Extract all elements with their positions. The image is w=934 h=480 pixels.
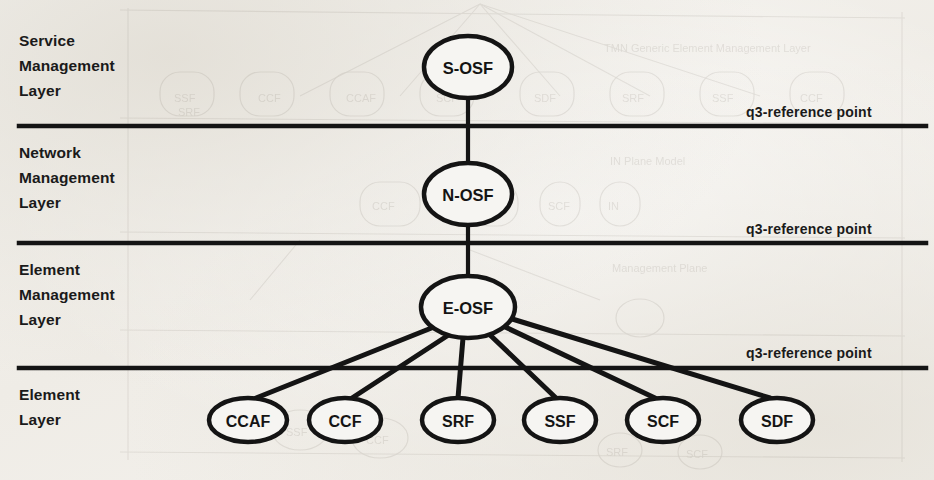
node-n-osf-label: N-OSF [442, 186, 493, 204]
node-e-osf: E-OSF [421, 276, 515, 338]
node-srf-label: SRF [442, 413, 474, 430]
node-s-osf: S-OSF [424, 36, 512, 98]
node-ccaf-label: CCAF [226, 413, 271, 430]
scanned-figure-page: TMN Generic Element Management Layer IN … [0, 0, 934, 480]
node-n-osf: N-OSF [424, 163, 512, 225]
q3-reference-point-label-1: q3-reference point [746, 104, 872, 120]
node-srf: SRF [422, 398, 494, 442]
connector-edges [256, 98, 770, 398]
layer-label-line: Element [19, 382, 80, 407]
edge-e-osf-sdf [509, 318, 770, 398]
q3-reference-point-label-3: q3-reference point [746, 345, 872, 361]
layer-label-line: Layer [19, 78, 115, 103]
node-ccf-label: CCF [329, 413, 362, 430]
node-ccaf: CCAF [209, 398, 287, 442]
edge-e-osf-srf [458, 338, 463, 398]
node-scf-label: SCF [647, 413, 679, 430]
diagram-canvas: S-OSF N-OSF E-OSF CCAF [0, 0, 934, 480]
trunk-nodes: S-OSF N-OSF E-OSF [421, 36, 515, 338]
layer-label-line: Layer [19, 190, 115, 215]
node-ssf: SSF [524, 398, 596, 442]
layer-label-element: Element Layer [19, 382, 80, 432]
node-scf: SCF [627, 398, 699, 442]
node-sdf-label: SDF [761, 413, 793, 430]
layer-label-line: Management [19, 53, 115, 78]
node-sdf: SDF [741, 398, 813, 442]
node-ccf: CCF [309, 398, 381, 442]
node-s-osf-label: S-OSF [443, 59, 493, 77]
layer-label-line: Management [19, 165, 115, 190]
node-e-osf-label: E-OSF [443, 299, 493, 317]
layer-label-network-management: Network Management Layer [19, 140, 115, 215]
layer-label-line: Layer [19, 307, 115, 332]
layer-label-line: Element [19, 257, 115, 282]
node-ssf-label: SSF [544, 413, 575, 430]
layer-label-service-management: Service Management Layer [19, 28, 115, 103]
leaf-nodes: CCAF CCF SRF SSF SCF [209, 398, 813, 442]
edge-e-osf-scf [503, 326, 655, 398]
layer-label-line: Service [19, 28, 115, 53]
layer-label-element-management: Element Management Layer [19, 257, 115, 332]
layer-label-line: Network [19, 140, 115, 165]
q3-reference-point-label-2: q3-reference point [746, 221, 872, 237]
layer-label-line: Management [19, 282, 115, 307]
layer-label-line: Layer [19, 407, 80, 432]
